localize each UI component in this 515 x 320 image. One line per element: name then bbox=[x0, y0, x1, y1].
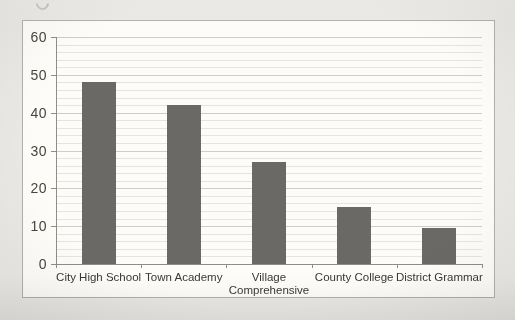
minor-gridline bbox=[56, 82, 482, 83]
minor-gridline bbox=[56, 120, 482, 121]
cropped-text-artifact bbox=[33, 0, 51, 13]
y-tick-label: 20 bbox=[23, 179, 47, 197]
y-tick-mark bbox=[51, 226, 56, 227]
y-tick-mark bbox=[51, 188, 56, 189]
y-tick-label: 50 bbox=[23, 66, 47, 84]
x-axis-line bbox=[56, 264, 482, 265]
y-tick-mark bbox=[51, 113, 56, 114]
minor-gridline bbox=[56, 143, 482, 144]
y-tick-label: 10 bbox=[23, 217, 47, 235]
minor-gridline bbox=[56, 52, 482, 53]
minor-gridline bbox=[56, 98, 482, 99]
minor-gridline bbox=[56, 158, 482, 159]
minor-gridline bbox=[56, 135, 482, 136]
x-tick-mark bbox=[226, 264, 227, 268]
minor-gridline bbox=[56, 128, 482, 129]
x-tick-mark bbox=[397, 264, 398, 268]
bar-chart: 0102030405060City High SchoolTown Academ… bbox=[22, 20, 495, 298]
y-axis-line bbox=[56, 37, 57, 264]
x-tick-mark bbox=[312, 264, 313, 268]
bar-town-academy bbox=[167, 105, 201, 264]
y-tick-mark bbox=[51, 151, 56, 152]
y-tick-label: 60 bbox=[23, 28, 47, 46]
major-gridline bbox=[56, 75, 482, 76]
bar-city-high-school bbox=[82, 82, 116, 264]
photo-background: 0102030405060City High SchoolTown Academ… bbox=[0, 0, 515, 320]
y-tick-label: 30 bbox=[23, 142, 47, 160]
minor-gridline bbox=[56, 105, 482, 106]
minor-gridline bbox=[56, 45, 482, 46]
major-gridline bbox=[56, 151, 482, 152]
minor-gridline bbox=[56, 67, 482, 68]
x-category-label: District Grammar bbox=[379, 271, 499, 284]
y-tick-mark bbox=[51, 37, 56, 38]
x-tick-mark bbox=[482, 264, 483, 268]
x-tick-mark bbox=[56, 264, 57, 268]
major-gridline bbox=[56, 37, 482, 38]
x-tick-mark bbox=[141, 264, 142, 268]
y-tick-label: 40 bbox=[23, 104, 47, 122]
y-tick-mark bbox=[51, 75, 56, 76]
bar-county-college bbox=[337, 207, 371, 264]
bar-village-comprehensive bbox=[252, 162, 286, 264]
minor-gridline bbox=[56, 90, 482, 91]
major-gridline bbox=[56, 113, 482, 114]
bar-district-grammar bbox=[422, 228, 456, 264]
minor-gridline bbox=[56, 60, 482, 61]
